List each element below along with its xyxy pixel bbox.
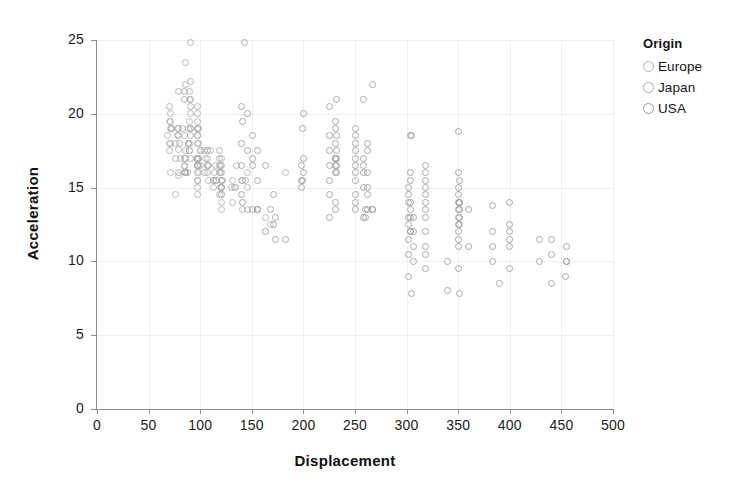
data-point xyxy=(232,184,239,191)
data-point xyxy=(352,155,359,162)
data-point xyxy=(298,184,305,191)
data-point xyxy=(300,110,307,117)
data-point xyxy=(216,147,223,154)
data-point xyxy=(187,110,194,117)
data-point xyxy=(238,162,245,169)
y-tick xyxy=(91,409,97,410)
data-point xyxy=(194,125,201,132)
data-point xyxy=(282,169,289,176)
data-point xyxy=(455,128,462,135)
data-point xyxy=(455,184,462,191)
data-point xyxy=(369,81,376,88)
data-point xyxy=(362,214,369,221)
data-point xyxy=(455,243,462,250)
data-point xyxy=(405,273,412,280)
data-point xyxy=(506,199,513,206)
data-point xyxy=(422,265,429,272)
x-tick xyxy=(252,409,253,414)
data-point xyxy=(455,169,462,176)
data-point xyxy=(172,191,179,198)
data-point xyxy=(563,243,570,250)
data-point xyxy=(166,103,173,110)
y-tick xyxy=(91,261,97,262)
data-point xyxy=(187,103,194,110)
y-tick xyxy=(91,40,97,41)
data-point xyxy=(210,177,217,184)
data-point xyxy=(410,258,417,265)
data-point xyxy=(249,155,256,162)
x-tick xyxy=(149,409,150,414)
data-point xyxy=(333,96,340,103)
gridline-vertical xyxy=(561,40,562,409)
data-point xyxy=(364,140,371,147)
data-point xyxy=(244,147,251,154)
y-axis-label: Acceleration xyxy=(24,94,41,334)
data-point xyxy=(455,265,462,272)
data-point xyxy=(181,96,188,103)
y-tick-label: 0 xyxy=(46,400,84,416)
data-point xyxy=(262,162,269,169)
data-point xyxy=(177,155,184,162)
data-point xyxy=(332,162,339,169)
data-point xyxy=(194,110,201,117)
gridline-vertical xyxy=(355,40,356,409)
data-point xyxy=(422,162,429,169)
legend-item-europe[interactable]: Europe xyxy=(643,56,735,77)
data-point xyxy=(422,228,429,235)
data-point xyxy=(455,214,462,221)
data-point xyxy=(333,147,340,154)
data-point xyxy=(455,228,462,235)
data-point xyxy=(272,214,279,221)
data-point xyxy=(536,236,543,243)
data-point xyxy=(422,243,429,250)
y-tick xyxy=(91,114,97,115)
x-tick xyxy=(458,409,459,414)
data-point xyxy=(205,162,212,169)
data-point xyxy=(408,290,415,297)
data-point xyxy=(187,132,194,139)
data-point xyxy=(194,118,201,125)
data-point xyxy=(563,258,570,265)
data-point xyxy=(175,88,182,95)
data-point xyxy=(195,140,202,147)
data-point xyxy=(506,265,513,272)
data-point xyxy=(506,228,513,235)
data-point xyxy=(407,169,414,176)
data-point xyxy=(238,191,245,198)
gridline-horizontal xyxy=(97,40,613,41)
data-point xyxy=(364,191,371,198)
data-point xyxy=(360,96,367,103)
data-point xyxy=(364,147,371,154)
legend-title: Origin xyxy=(643,36,735,51)
data-point xyxy=(166,147,173,154)
y-tick-label: 10 xyxy=(46,252,84,268)
x-tick xyxy=(510,409,511,414)
data-point xyxy=(548,236,555,243)
x-tick xyxy=(355,409,356,414)
data-point xyxy=(204,155,211,162)
data-point xyxy=(299,125,306,132)
data-point xyxy=(489,202,496,209)
data-point xyxy=(218,199,225,206)
data-point xyxy=(489,243,496,250)
data-point xyxy=(352,132,359,139)
data-point xyxy=(167,125,174,132)
legend-item-japan[interactable]: Japan xyxy=(643,77,735,98)
legend-item-label: USA xyxy=(658,101,686,116)
data-point xyxy=(241,39,248,46)
data-point xyxy=(536,258,543,265)
x-tick xyxy=(97,409,98,414)
data-point xyxy=(360,155,367,162)
data-point xyxy=(422,177,429,184)
legend-item-label: Europe xyxy=(658,59,702,74)
data-point xyxy=(332,199,339,206)
data-point xyxy=(326,177,333,184)
data-point xyxy=(422,206,429,213)
data-point xyxy=(422,191,429,198)
data-point xyxy=(506,243,513,250)
data-point xyxy=(332,206,339,213)
legend-item-usa[interactable]: USA xyxy=(643,98,735,119)
x-tick xyxy=(613,409,614,414)
data-point xyxy=(352,125,359,132)
data-point xyxy=(254,147,261,154)
